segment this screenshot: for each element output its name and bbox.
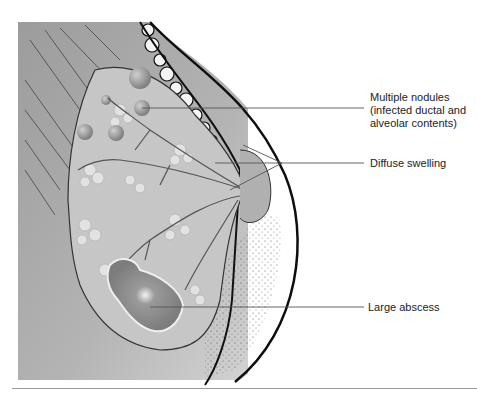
label-line: Diffuse swelling xyxy=(370,157,446,170)
bottom-rule xyxy=(12,388,477,389)
label-diffuse-swelling: Diffuse swelling xyxy=(370,157,446,170)
breast-abscess-illustration xyxy=(0,0,477,398)
label-line: Multiple nodules xyxy=(370,91,466,104)
label-large-abscess: Large abscess xyxy=(368,301,440,314)
areola xyxy=(240,150,271,223)
label-line: Large abscess xyxy=(368,301,440,314)
label-multiple-nodules: Multiple nodules (infected ductal and al… xyxy=(370,91,466,130)
label-line: (infected ductal and xyxy=(370,104,466,117)
label-line: alveolar contents) xyxy=(370,117,466,130)
